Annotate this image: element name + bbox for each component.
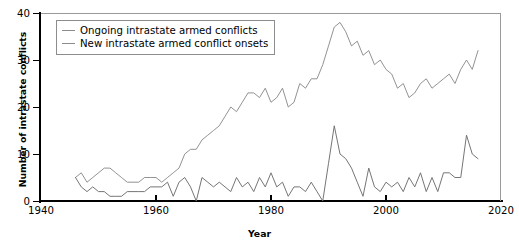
x-tick-label-2020: 2020: [488, 205, 514, 216]
legend-item-ongoing: Ongoing intrastate armed conflicts: [62, 24, 268, 37]
y-tick-10: [33, 154, 39, 155]
legend-swatch-onsets-icon: [62, 43, 75, 44]
plot-frame-right: [500, 13, 501, 201]
y-tick-label-0: 0: [0, 196, 30, 207]
x-tick-1980: [270, 195, 272, 202]
y-tick-label-20: 20: [0, 102, 30, 113]
chart-figure: Number of intrastate conflicts 010203040…: [0, 0, 519, 245]
y-tick-20: [33, 107, 39, 108]
chart-legend: Ongoing intrastate armed conflicts New i…: [56, 20, 275, 55]
plot-frame-top: [41, 13, 501, 14]
x-tick-label-1960: 1960: [143, 205, 169, 216]
y-tick-40: [33, 13, 39, 14]
x-tick-2000: [385, 195, 387, 202]
y-tick-30: [33, 60, 39, 61]
y-tick-label-10: 10: [0, 149, 30, 160]
x-tick-1960: [155, 195, 157, 202]
legend-swatch-ongoing-icon: [62, 30, 75, 31]
legend-label-onsets: New intrastate armed conflict onsets: [80, 37, 268, 50]
x-axis-title: Year: [0, 228, 519, 239]
x-tick-label-1980: 1980: [258, 205, 284, 216]
legend-label-ongoing: Ongoing intrastate armed conflicts: [80, 24, 258, 37]
y-tick-0: [33, 201, 39, 202]
x-tick-label-1940: 1940: [28, 205, 54, 216]
x-tick-label-2000: 2000: [373, 205, 399, 216]
y-tick-label-40: 40: [0, 8, 30, 19]
legend-item-onsets: New intrastate armed conflict onsets: [62, 37, 268, 50]
y-tick-label-30: 30: [0, 55, 30, 66]
series-line-onsets: [76, 126, 479, 201]
